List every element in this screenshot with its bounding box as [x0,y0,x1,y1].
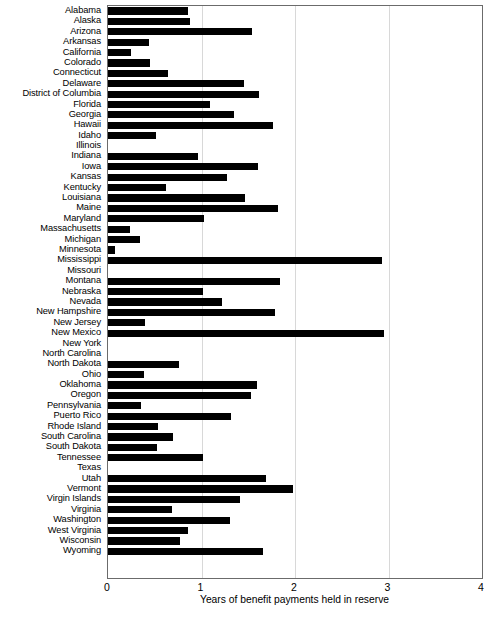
y-axis-label: New Mexico [0,327,104,337]
bar [108,18,190,25]
bar [108,7,188,14]
y-axis-label: Wisconsin [0,535,104,545]
bar-row [108,349,482,359]
bar-row [108,505,482,515]
y-axis-label: Louisiana [0,192,104,202]
bar-row [108,100,482,110]
y-axis-label: Alaska [0,15,104,25]
bar-row [108,48,482,58]
bar [108,194,245,201]
bar-row [108,214,482,224]
bar-row [108,110,482,120]
bar [108,506,172,513]
bar [108,70,168,77]
bar [108,444,157,451]
y-axis-label: Alabama [0,5,104,15]
bar [108,278,280,285]
bar [108,132,156,139]
bar-row [108,193,482,203]
bar-row [108,359,482,369]
x-axis-ticks: 01234 [107,579,482,595]
y-axis-label: Missouri [0,265,104,275]
bar-row [108,328,482,338]
bar [108,496,240,503]
x-axis-tick-label: 2 [291,581,297,593]
bar-row [108,297,482,307]
y-axis-label: Iowa [0,161,104,171]
bar-row [108,162,482,172]
y-axis-label: South Carolina [0,431,104,441]
bar-row [108,494,482,504]
y-axis-label: Massachusetts [0,223,104,233]
bar [108,517,230,524]
y-axis-label: Georgia [0,109,104,119]
bar-row [108,6,482,16]
y-axis-label: Puerto Rico [0,410,104,420]
bar [108,163,258,170]
y-axis-label: Utah [0,473,104,483]
bar-row [108,287,482,297]
bar-row [108,266,482,276]
bar-row [108,16,482,26]
bar-row [108,276,482,286]
bar [108,548,263,555]
y-axis-label: Kansas [0,171,104,181]
bar [108,433,173,440]
bar-row [108,370,482,380]
bar [108,101,210,108]
bar-row [108,89,482,99]
y-axis-labels: AlabamaAlaskaArizonaArkansasCaliforniaCo… [0,5,104,577]
bar [108,371,144,378]
bar-row [108,442,482,452]
bar [108,80,244,87]
bar-row [108,453,482,463]
y-axis-label: Florida [0,99,104,109]
bar [108,205,278,212]
y-axis-label: Montana [0,275,104,285]
x-axis-tick-label: 1 [198,581,204,593]
y-axis-label: District of Columbia [0,88,104,98]
bar [108,122,273,129]
bar [108,226,130,233]
y-axis-label: Michigan [0,234,104,244]
y-axis-label: Virgin Islands [0,493,104,503]
bar-row [108,120,482,130]
bar [108,298,222,305]
bar-row [108,526,482,536]
y-axis-label: Maine [0,202,104,212]
plot-area [107,5,483,579]
x-axis-title: Years of benefit payments held in reserv… [107,594,482,605]
bar [108,527,188,534]
bar [108,330,384,337]
bar [108,423,158,430]
bar-row [108,432,482,442]
y-axis-label: Rhode Island [0,421,104,431]
y-axis-label: Oklahoma [0,379,104,389]
bar [108,402,141,409]
bar-row [108,27,482,37]
bar [108,288,203,295]
y-axis-label: Colorado [0,57,104,67]
bar-row [108,141,482,151]
bar-row [108,151,482,161]
y-axis-label: Ohio [0,369,104,379]
y-axis-label: Mississippi [0,254,104,264]
y-axis-label: New Hampshire [0,306,104,316]
bar [108,257,382,264]
bar-row [108,203,482,213]
y-axis-label: Vermont [0,483,104,493]
bar-row [108,245,482,255]
y-axis-label: Washington [0,514,104,524]
bar-row [108,422,482,432]
y-axis-label: Virginia [0,504,104,514]
bar-row [108,515,482,525]
bar [108,381,257,388]
y-axis-label: North Dakota [0,358,104,368]
bar-rows [108,6,482,578]
bar [108,392,251,399]
bar-row [108,390,482,400]
y-axis-label: Hawaii [0,119,104,129]
bar [108,49,131,56]
y-axis-label: Maryland [0,213,104,223]
bar-row [108,183,482,193]
